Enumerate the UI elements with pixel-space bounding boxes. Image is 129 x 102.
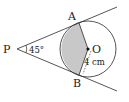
label-angle: 45°	[29, 45, 44, 55]
shaded-region	[61, 23, 88, 75]
center-point-o	[86, 47, 89, 50]
label-o: O	[92, 43, 101, 56]
label-radius: 4 cm	[84, 57, 105, 67]
label-b: B	[73, 77, 81, 90]
label-p: P	[3, 43, 11, 56]
angle-arc-p	[26, 45, 27, 53]
label-a: A	[67, 10, 77, 23]
tangent-circle-diagram: P 45° A O B 4 cm	[0, 0, 129, 102]
